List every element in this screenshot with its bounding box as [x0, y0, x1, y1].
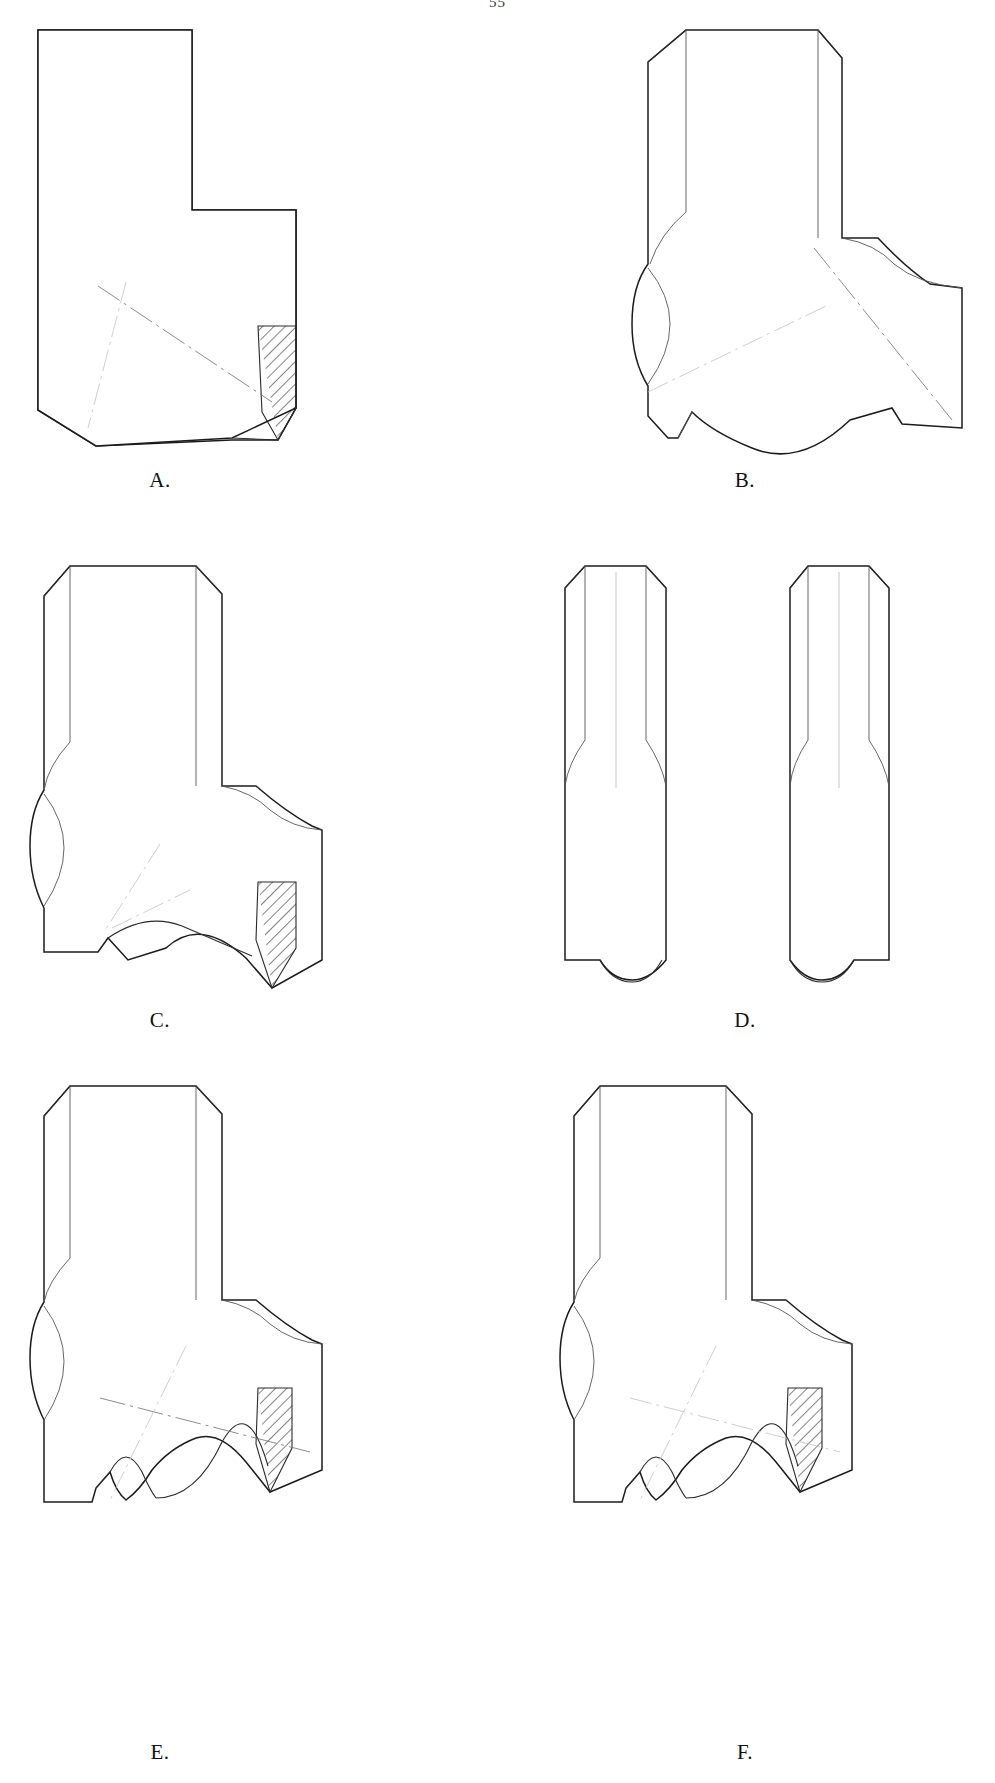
figure-a-group — [38, 30, 306, 450]
figure-label-e: E. — [120, 1740, 200, 1765]
figure-c-group — [30, 566, 322, 998]
plate-artwork — [0, 0, 995, 1783]
figure-b-group — [632, 30, 962, 454]
figure-label-a: A. — [120, 468, 200, 493]
figure-d-bar-left-outline — [565, 566, 666, 980]
figure-f-group — [560, 1086, 852, 1502]
figure-d-bar-right-outline — [790, 566, 889, 980]
figure-e-group — [30, 1086, 322, 1502]
figure-b-outline — [632, 30, 962, 454]
figure-a-outline-main — [38, 30, 296, 446]
figure-d-group — [565, 566, 889, 982]
figure-label-d: D. — [705, 1008, 785, 1033]
drawing-plate: 55 — [0, 0, 995, 1783]
figure-label-b: B. — [705, 468, 785, 493]
figure-label-c: C. — [120, 1008, 200, 1033]
figure-label-f: F. — [705, 1740, 785, 1765]
